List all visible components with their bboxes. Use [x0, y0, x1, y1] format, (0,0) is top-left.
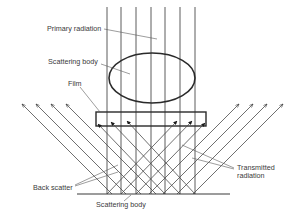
scatter-radiation-diagram: Primary radiation Scattering body Film B…: [0, 0, 296, 221]
label-transmitted-line2: radiation: [237, 171, 265, 180]
scattering-body-ellipse: [109, 53, 195, 103]
label-primary-radiation: Primary radiation: [47, 24, 101, 33]
label-scattering-body-top: Scattering body: [48, 57, 98, 66]
label-scattering-body-bottom: Scattering body: [96, 200, 146, 209]
primary-radiation-beams: [107, 7, 195, 194]
film-hitting-rays: [98, 121, 205, 194]
label-film: Film: [68, 79, 82, 88]
label-back-scatter: Back scatter: [33, 183, 73, 192]
back-scatter-rays-right: [149, 104, 283, 194]
